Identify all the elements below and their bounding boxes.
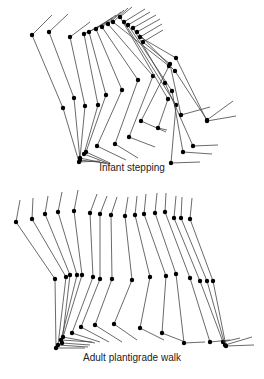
limb-stick — [174, 196, 240, 342]
limb-stick — [72, 194, 100, 342]
joint-marker — [174, 272, 178, 276]
joint-marker — [82, 32, 86, 36]
joint-marker — [127, 135, 131, 139]
joint-marker — [156, 126, 160, 130]
panel-infant — [30, 7, 236, 165]
joint-marker — [139, 119, 143, 123]
joint-marker — [47, 30, 51, 34]
joint-marker — [100, 25, 104, 29]
joint-marker — [141, 40, 145, 44]
joint-marker — [95, 144, 99, 148]
joint-marker — [179, 113, 183, 117]
limb-stick — [140, 24, 236, 121]
joint-marker — [98, 277, 102, 281]
limb-stick — [58, 192, 92, 342]
joint-marker — [88, 211, 92, 215]
limb-stick — [190, 198, 254, 346]
joint-marker — [43, 212, 47, 216]
gait-stick-figure — [0, 0, 264, 379]
joint-marker — [75, 273, 79, 277]
limb-stick — [165, 193, 230, 342]
joint-marker — [135, 30, 139, 34]
joint-marker — [56, 343, 60, 347]
joint-marker — [164, 274, 168, 278]
joint-marker — [205, 119, 209, 123]
joint-marker — [138, 326, 142, 330]
joint-marker — [98, 212, 102, 216]
joint-marker — [133, 213, 137, 217]
limb-stick — [96, 15, 126, 160]
joint-marker — [109, 213, 113, 217]
joint-marker — [208, 340, 212, 344]
joint-marker — [68, 273, 72, 277]
joint-marker — [153, 211, 157, 215]
limb-stick — [137, 19, 233, 120]
joint-marker — [131, 26, 135, 30]
joint-marker — [87, 30, 91, 34]
limb-stick — [32, 198, 88, 347]
joint-marker — [182, 341, 186, 345]
joint-marker — [136, 78, 140, 82]
joint-marker — [172, 216, 176, 220]
joint-marker — [205, 279, 209, 283]
joint-marker — [79, 325, 83, 329]
joint-marker — [14, 220, 18, 224]
limb-stick — [135, 196, 164, 340]
joint-marker — [122, 20, 126, 24]
joint-marker — [56, 210, 60, 214]
joint-marker — [111, 20, 115, 24]
joint-marker — [198, 279, 202, 283]
joint-marker — [163, 81, 167, 85]
limb-stick — [128, 12, 212, 154]
joint-marker — [188, 217, 192, 221]
joint-marker — [188, 276, 192, 280]
joint-marker — [83, 104, 87, 108]
joint-marker — [160, 331, 164, 335]
joint-marker — [166, 97, 170, 101]
joint-marker — [70, 331, 74, 335]
joint-marker — [84, 150, 88, 154]
caption-infant-stepping: Infant stepping — [0, 162, 264, 173]
limb-stick — [144, 194, 185, 342]
joint-marker — [93, 323, 97, 327]
joint-marker — [30, 217, 34, 221]
joint-marker — [113, 142, 117, 146]
joint-marker — [106, 22, 110, 26]
joint-marker — [94, 27, 98, 31]
joint-marker — [91, 275, 95, 279]
joint-marker — [191, 144, 195, 148]
limb-stick — [113, 8, 169, 132]
joint-marker — [123, 214, 127, 218]
joint-marker — [68, 35, 72, 39]
joint-marker — [96, 103, 100, 107]
joint-marker — [110, 277, 114, 281]
limb-stick — [114, 197, 137, 340]
joint-marker — [179, 216, 183, 220]
joint-marker — [112, 322, 116, 326]
limb-stick — [49, 14, 106, 163]
limb-stick — [32, 15, 100, 162]
limb-stick — [81, 196, 109, 342]
joint-marker — [138, 35, 142, 39]
joint-marker — [174, 56, 178, 60]
joint-marker — [224, 344, 228, 348]
joint-marker — [61, 335, 65, 339]
joint-marker — [72, 209, 76, 213]
joint-marker — [211, 279, 215, 283]
limb-stick — [95, 197, 122, 342]
joint-marker — [130, 278, 134, 282]
caption-adult-plantigrade-walk: Adult plantigrade walk — [0, 352, 264, 363]
joint-marker — [53, 277, 57, 281]
joint-marker — [142, 212, 146, 216]
joint-marker — [64, 275, 68, 279]
joint-marker — [78, 156, 82, 160]
joint-marker — [104, 93, 108, 97]
joint-marker — [118, 15, 122, 19]
joint-marker — [163, 210, 167, 214]
joint-marker — [30, 33, 34, 37]
joint-marker — [170, 89, 174, 93]
joint-marker — [72, 96, 76, 100]
joint-marker — [120, 88, 124, 92]
joint-marker — [173, 69, 177, 73]
joint-marker — [126, 23, 130, 27]
